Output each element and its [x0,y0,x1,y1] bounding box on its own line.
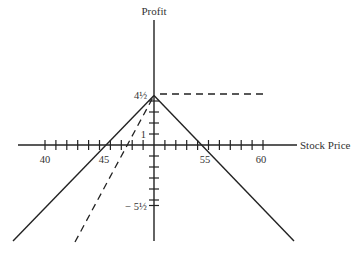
y-axis-title: Profit [141,5,166,17]
x-tick-label-40: 40 [40,154,51,165]
dashed-payoff-sloped [75,96,154,243]
x-axis-title: Stock Price [300,139,351,151]
payoff-chart: Profit Stock Price 40 45 55 60 4½ 1 − 5½ [0,0,363,256]
solid-payoff-right [154,96,294,242]
y-tick-label-neg-5-5: − 5½ [125,201,147,212]
x-tick-label-55: 55 [200,154,211,165]
x-tick-label-60: 60 [256,154,267,165]
y-tick-label-4-5: 4½ [134,90,147,101]
solid-payoff-left [13,96,154,242]
x-tick-label-45: 45 [99,154,110,165]
y-tick-label-1: 1 [141,129,146,140]
